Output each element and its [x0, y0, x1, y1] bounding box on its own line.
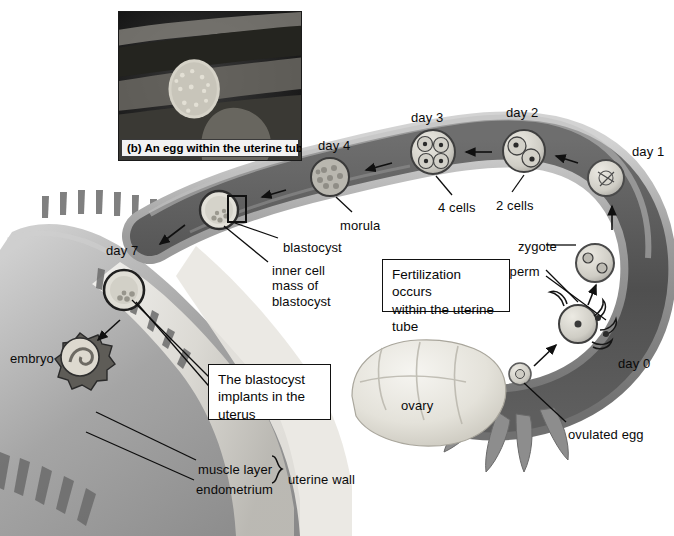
ovulated-egg-label: ovulated egg: [568, 427, 644, 442]
muscle-layer-label: muscle layer: [198, 462, 272, 477]
day-3-label: day 3: [411, 110, 443, 125]
inset-micrograph-panel: (b) An egg within the uterine tube: [118, 11, 302, 161]
zygote-label: zygote: [518, 239, 557, 254]
morula-label: morula: [340, 218, 380, 233]
arrow-ovary-to-tube: [534, 345, 556, 366]
day-2-label: day 2: [506, 105, 538, 120]
egg-micrograph-image: [119, 12, 301, 160]
embryo-label: embryo: [10, 351, 54, 366]
four-cells-label: 4 cells: [438, 200, 476, 215]
day-7-label: day 7: [106, 243, 138, 258]
arrow-fert-to-zygote: [588, 285, 596, 305]
uterine-wall-label: uterine wall: [288, 472, 355, 487]
ovary-label: ovary: [401, 398, 433, 413]
anatomy-artwork: [0, 0, 674, 536]
day-4-label: day 4: [318, 138, 350, 153]
endometrium-label: endometrium: [196, 482, 273, 497]
ovary: [352, 340, 506, 446]
figure-root: (b) An egg within the uterine tube day 0…: [0, 0, 674, 536]
two-cells-label: 2 cells: [496, 198, 534, 213]
day-1-label: day 1: [632, 144, 664, 159]
blastocyst-label: blastocyst: [283, 240, 342, 255]
inner-cell-mass-label: inner cell mass of blastocyst: [272, 263, 331, 309]
fertilization-callout: Fertilization occurs within the uterine …: [382, 259, 510, 312]
inset-caption: (b) An egg within the uterine tube: [121, 139, 299, 157]
day-0-label: day 0: [618, 356, 650, 371]
implantation-callout: The blastocyst implants in the uterus: [208, 364, 331, 420]
